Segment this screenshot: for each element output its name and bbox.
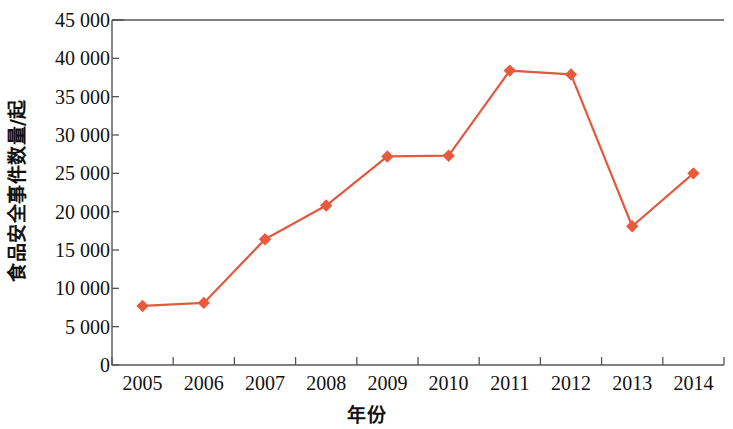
x-axis-tick-label: 2006 (184, 372, 224, 395)
x-axis-title: 年份 (0, 400, 733, 427)
axis-lines (112, 20, 724, 365)
data-point-marker: 2012: 37900 (565, 68, 577, 80)
x-axis-tick-label: 2010 (429, 372, 469, 395)
data-point-marker: 2005: 7700 (136, 300, 148, 312)
x-axis-tick-label: 2008 (306, 372, 346, 395)
axis-spine (112, 20, 724, 365)
plot-area: 2005: 77002006: 81002007: 164002008: 208… (0, 0, 733, 429)
x-axis-tick-label: 2009 (367, 372, 407, 395)
x-axis-tick-label: 2005 (123, 372, 163, 395)
data-point-markers: 2005: 77002006: 81002007: 164002008: 208… (136, 64, 699, 312)
data-series-line (143, 71, 694, 306)
x-axis-tick-label: 2014 (673, 372, 713, 395)
x-axis-tick-label: 2013 (612, 372, 652, 395)
x-axis-tick-label: 2012 (551, 372, 591, 395)
x-axis-tick-label: 2007 (245, 372, 285, 395)
x-axis-tick-label: 2011 (490, 372, 529, 395)
axis-ticks (112, 20, 724, 365)
line-chart: 食品安全事件数量/起 05 00010 00015 00020 00025 00… (0, 0, 733, 429)
x-axis-tick-labels: 2005200620072008200920102011201220132014 (0, 372, 733, 402)
